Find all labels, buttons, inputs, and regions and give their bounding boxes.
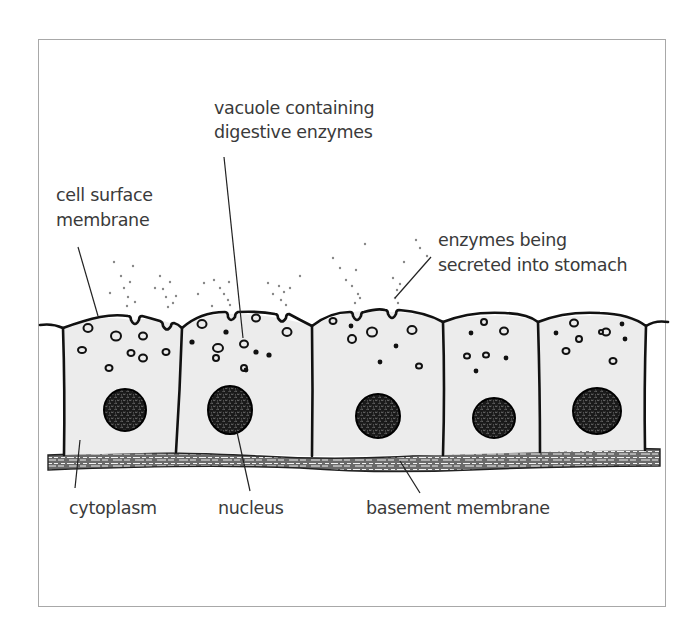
label-cell-surface-line1: cell surface bbox=[56, 184, 153, 206]
leader-vacuole bbox=[224, 157, 243, 338]
secreted-enzymes bbox=[109, 239, 428, 308]
label-nucleus: nucleus bbox=[218, 497, 284, 519]
nucleus-4 bbox=[473, 398, 515, 438]
label-cell-surface-line2: membrane bbox=[56, 209, 149, 231]
leader-enzymes bbox=[395, 257, 431, 298]
label-vacuole-line2: digestive enzymes bbox=[214, 121, 373, 143]
label-enzymes-line1: enzymes being bbox=[438, 229, 567, 251]
label-cytoplasm: cytoplasm bbox=[69, 497, 157, 519]
epithelium-diagram bbox=[0, 0, 698, 624]
label-basement-membrane: basement membrane bbox=[366, 497, 550, 519]
nucleus-3 bbox=[356, 394, 400, 438]
leader-cell-surface bbox=[78, 247, 98, 316]
label-enzymes-line2: secreted into stomach bbox=[438, 254, 627, 276]
nucleus-1 bbox=[104, 389, 146, 431]
label-vacuole-line1: vacuole containing bbox=[214, 97, 374, 119]
nucleus-5 bbox=[573, 388, 621, 434]
cell-2 bbox=[176, 314, 312, 456]
cell-1 bbox=[63, 318, 182, 455]
nucleus-2 bbox=[208, 386, 252, 434]
